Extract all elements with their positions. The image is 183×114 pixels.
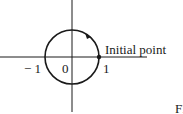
unit-circle-diagram xyxy=(0,0,183,114)
label-initial-point: Initial point xyxy=(105,43,166,56)
initial-point-marker xyxy=(97,55,101,59)
label-one: 1 xyxy=(103,62,110,75)
figure-caption-fragment: FI xyxy=(175,102,183,114)
label-zero: 0 xyxy=(62,62,69,75)
label-neg-one: − 1 xyxy=(24,62,41,75)
